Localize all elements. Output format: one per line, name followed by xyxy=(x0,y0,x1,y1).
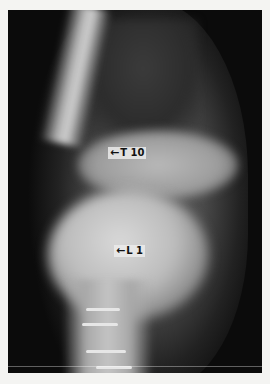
left-arrow-icon: ← xyxy=(116,245,125,257)
lumbar-spine xyxy=(63,280,153,373)
vertebral-disc xyxy=(86,308,120,311)
vertebral-disc xyxy=(86,350,126,353)
xray-image: ← T 10 ← L 1 xyxy=(8,10,262,373)
diaphragm-dome xyxy=(78,130,238,200)
left-arrow-icon: ← xyxy=(110,147,119,159)
vertebra-label-t10: ← T 10 xyxy=(108,147,146,159)
vertebral-disc xyxy=(82,323,118,326)
scan-artifact-line xyxy=(8,366,262,367)
vertebra-label-l1: ← L 1 xyxy=(114,245,145,257)
